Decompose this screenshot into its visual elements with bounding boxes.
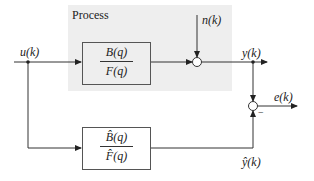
process-denominator: F(q): [82, 64, 151, 78]
noise-signal-label: n(k): [202, 14, 221, 26]
minus-sign: −: [258, 108, 264, 118]
model-output-signal-label: ŷ(k): [242, 156, 261, 168]
process-numerator: B(q): [82, 45, 151, 59]
fraction-bar: [100, 146, 133, 147]
model-numerator: B̂(q): [82, 130, 151, 144]
output-branch-point: [251, 60, 255, 64]
error-signal-label: e(k): [274, 91, 293, 103]
fraction-bar: [100, 61, 133, 62]
process-transfer-function: B(q) F(q): [82, 45, 151, 78]
model-transfer-function: B̂(q) F̂(q): [82, 130, 151, 163]
model-denominator: F̂(q): [82, 149, 151, 163]
input-branch-point: [26, 60, 30, 64]
noise-summing-junction: [193, 58, 202, 67]
input-signal-label: u(k): [20, 46, 39, 58]
output-signal-label: y(k): [242, 47, 261, 59]
error-summing-junction: [249, 102, 258, 111]
diagram-wires: [0, 0, 314, 181]
